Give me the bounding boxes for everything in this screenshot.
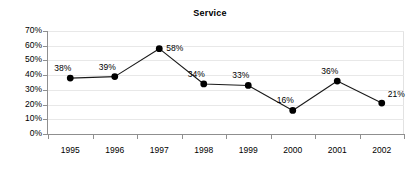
series-markers (67, 45, 385, 114)
service-line-chart: Service 0%10%20%30%40%50%60%70% 19951996… (0, 0, 420, 169)
point-label-1999: 33% (232, 71, 249, 80)
point-label-1997: 58% (166, 44, 183, 53)
data-point-2002 (378, 100, 385, 107)
data-point-2001 (334, 78, 341, 85)
point-label-1998: 34% (188, 70, 205, 79)
point-label-1995: 38% (54, 64, 71, 73)
data-point-2000 (289, 107, 296, 114)
data-point-1999 (245, 82, 252, 89)
data-point-1997 (156, 45, 163, 52)
point-label-1996: 39% (99, 63, 116, 72)
data-point-1996 (111, 73, 118, 80)
point-label-2000: 16% (277, 96, 294, 105)
data-point-1995 (67, 75, 74, 82)
point-label-2002: 21% (388, 90, 405, 99)
point-label-2001: 36% (321, 67, 338, 76)
series-line-service (0, 0, 420, 169)
data-point-1998 (200, 81, 207, 88)
